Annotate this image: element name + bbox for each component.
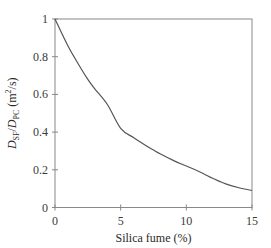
x-tick-label: 10 [180,214,192,228]
y-label-units-open: (m [5,93,19,110]
y-axis-label: DSF/DPC (m2/s) [4,77,21,150]
y-label-den-sub: PC [12,110,21,120]
y-tick-label: 0 [42,201,48,215]
y-tick-label: 0.6 [33,87,48,101]
plot-border [55,19,252,208]
y-label-num-main: D [5,140,19,150]
y-tick-label: 0.2 [33,163,48,177]
y-tick-label: 0.4 [33,125,48,139]
x-tick-label: 0 [52,214,58,228]
y-label-den-main: D [5,119,19,129]
y-tick-label: 0.8 [33,50,48,64]
x-axis-label: Silica fume (%) [116,231,192,245]
plot-frame [55,19,252,208]
x-tick-label: 15 [246,214,258,228]
y-axis-ticks: 00.20.40.60.81 [33,12,58,215]
chart: 00.20.40.60.81 051015 Silica fume (%) DS… [0,0,271,248]
y-tick-label: 1 [42,12,48,26]
y-label-units-close: /s) [5,77,19,89]
data-curve [55,19,252,191]
x-tick-label: 5 [118,214,124,228]
